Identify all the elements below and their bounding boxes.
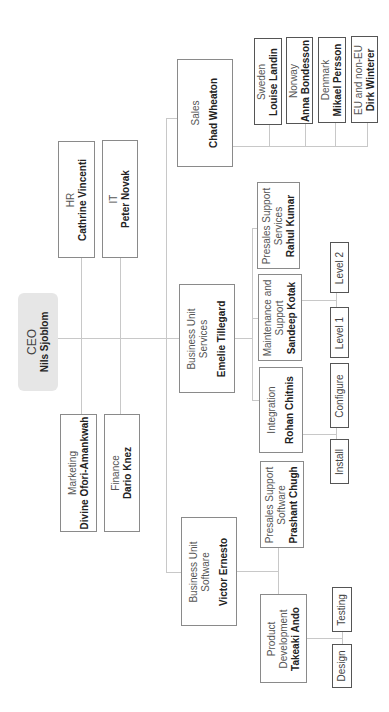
design-box[interactable]: Design bbox=[332, 644, 352, 688]
bu-services-name: Emelie Tillegard bbox=[216, 300, 228, 377]
bu-services-title-2: Services bbox=[198, 300, 210, 377]
connector-integration-children bbox=[303, 434, 336, 435]
maintenance-name: Sandeep Kotak bbox=[286, 279, 298, 356]
presales-software-title-1: Presales Support bbox=[264, 466, 276, 543]
bu-software-title-2: Software bbox=[200, 537, 212, 605]
configure-label: Configure bbox=[334, 374, 346, 417]
marketing-name: Divine Ofori-Amankwah bbox=[79, 417, 91, 530]
norway-box[interactable]: Norway Anna Bondesson bbox=[286, 37, 313, 124]
presales-software-box[interactable]: Presales Support Software Prashant Chugh bbox=[260, 461, 304, 548]
eu-name: Dirk Winterer bbox=[365, 44, 377, 114]
sales-title: Sales bbox=[190, 78, 202, 148]
connector-denmark bbox=[335, 123, 336, 146]
bu-software-name: Victor Ernesto bbox=[218, 537, 230, 605]
marketing-title: Marketing bbox=[67, 417, 79, 530]
level2-box[interactable]: Level 2 bbox=[330, 242, 349, 293]
product-dev-box[interactable]: Product Development Takeaki Ando bbox=[260, 594, 307, 683]
eu-title: EU and non-EU bbox=[353, 44, 365, 114]
it-title: IT bbox=[108, 170, 120, 228]
connector-presales-product-vertical bbox=[278, 548, 279, 594]
sales-box[interactable]: Sales Chad Wheaton bbox=[177, 59, 233, 167]
denmark-box[interactable]: Denmark Mikael Persson bbox=[318, 37, 346, 123]
hr-name: Cathrine Vincenti bbox=[77, 158, 89, 240]
it-name: Peter Novak bbox=[120, 170, 132, 228]
maintenance-title-2: Support bbox=[274, 279, 286, 356]
connector-integration bbox=[252, 400, 259, 401]
level2-label: Level 2 bbox=[334, 251, 346, 283]
ceo-name: Nils Sjoblom bbox=[39, 312, 51, 373]
maintenance-title-1: Maintenance and bbox=[262, 279, 274, 356]
presales-software-title-2: Software bbox=[276, 466, 288, 543]
connector-to-sales bbox=[166, 118, 177, 119]
eu-box[interactable]: EU and non-EU Dirk Winterer bbox=[351, 36, 378, 123]
connector-it-finance bbox=[120, 258, 121, 414]
integration-title: Integration bbox=[266, 376, 278, 444]
connector-bu-software-bus bbox=[237, 571, 279, 572]
bu-software-box[interactable]: Business Unit Software Victor Ernesto bbox=[181, 517, 237, 626]
connector-bus-services-vertical bbox=[252, 228, 253, 400]
bu-services-title-1: Business Unit bbox=[186, 300, 198, 377]
level1-label: Level 1 bbox=[334, 316, 346, 348]
connector-productdev-children bbox=[307, 638, 342, 639]
presales-services-name: Rahul Kumar bbox=[284, 187, 296, 264]
design-label: Design bbox=[336, 650, 348, 681]
connector-ceo-trunk bbox=[58, 338, 179, 339]
bu-services-box[interactable]: Business Unit Services Emelie Tillegard bbox=[179, 284, 235, 393]
hr-title: HR bbox=[65, 158, 77, 240]
denmark-name: Mikael Persson bbox=[332, 44, 344, 117]
connector-bus-services-stub bbox=[235, 338, 252, 339]
testing-box[interactable]: Testing bbox=[332, 587, 352, 632]
connector-main-trunk bbox=[166, 118, 167, 573]
ceo-title: CEO bbox=[25, 312, 39, 373]
denmark-title: Denmark bbox=[320, 44, 332, 117]
connector-maintenance-levels bbox=[302, 300, 337, 301]
connector-to-bu-software bbox=[166, 572, 181, 573]
connector-sales-bus bbox=[233, 146, 368, 147]
sweden-title: Sweden bbox=[256, 48, 268, 116]
connector-install-config-vertical bbox=[336, 428, 337, 439]
presales-services-title-2: Services bbox=[273, 187, 285, 264]
norway-name: Anna Bondesson bbox=[300, 39, 312, 121]
it-box[interactable]: IT Peter Novak bbox=[102, 140, 138, 258]
product-dev-name: Takeaki Ando bbox=[289, 607, 301, 671]
sweden-box[interactable]: Sweden Louise Landin bbox=[254, 38, 282, 125]
connector-eu bbox=[367, 123, 368, 146]
connector-hr-marketing bbox=[81, 258, 82, 414]
product-dev-title-2: Development bbox=[278, 607, 290, 671]
install-label: Install bbox=[334, 448, 346, 474]
finance-box[interactable]: Finance Dario Knez bbox=[104, 414, 140, 532]
sales-name: Chad Wheaton bbox=[208, 78, 220, 148]
configure-box[interactable]: Configure bbox=[330, 363, 349, 428]
connector-design-testing-vertical bbox=[342, 632, 343, 644]
presales-services-box[interactable]: Presales Support Services Rahul Kumar bbox=[257, 182, 300, 269]
maintenance-box[interactable]: Maintenance and Support Sandeep Kotak bbox=[258, 274, 302, 361]
norway-title: Norway bbox=[288, 39, 300, 121]
level1-box[interactable]: Level 1 bbox=[330, 307, 349, 358]
hr-box[interactable]: HR Cathrine Vincenti bbox=[58, 141, 95, 258]
finance-name: Dario Knez bbox=[122, 447, 134, 499]
presales-software-name: Prashant Chugh bbox=[288, 466, 300, 543]
finance-title: Finance bbox=[110, 447, 122, 499]
connector-norway bbox=[305, 124, 306, 146]
ceo-box[interactable]: CEO Nils Sjoblom bbox=[18, 293, 58, 391]
sweden-name: Louise Landin bbox=[268, 48, 280, 116]
testing-label: Testing bbox=[336, 594, 348, 626]
connector-levels-vertical bbox=[336, 293, 337, 307]
integration-box[interactable]: Integration Rohan Chitnis bbox=[259, 367, 303, 453]
bu-software-title-1: Business Unit bbox=[188, 537, 200, 605]
presales-services-title-1: Presales Support bbox=[261, 187, 273, 264]
product-dev-title-1: Product bbox=[266, 607, 278, 671]
connector-sweden bbox=[269, 125, 270, 146]
marketing-box[interactable]: Marketing Divine Ofori-Amankwah bbox=[60, 414, 97, 532]
integration-name: Rohan Chitnis bbox=[284, 376, 296, 444]
install-box[interactable]: Install bbox=[330, 439, 349, 484]
